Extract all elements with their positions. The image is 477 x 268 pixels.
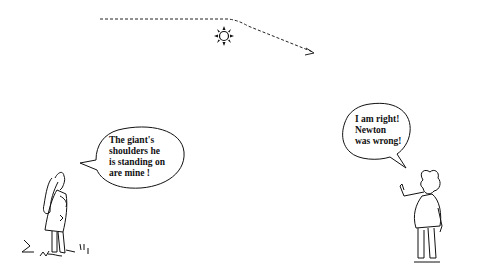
sun-icon [214, 26, 234, 46]
right-speech-text: I am right! Newton was wrong! [355, 114, 402, 147]
left-figure [22, 172, 88, 256]
right-figure [400, 170, 442, 262]
light-ray [100, 19, 313, 52]
left-speech-text: The giant's shoulders he is standing on … [109, 135, 165, 179]
illustration [0, 0, 477, 268]
